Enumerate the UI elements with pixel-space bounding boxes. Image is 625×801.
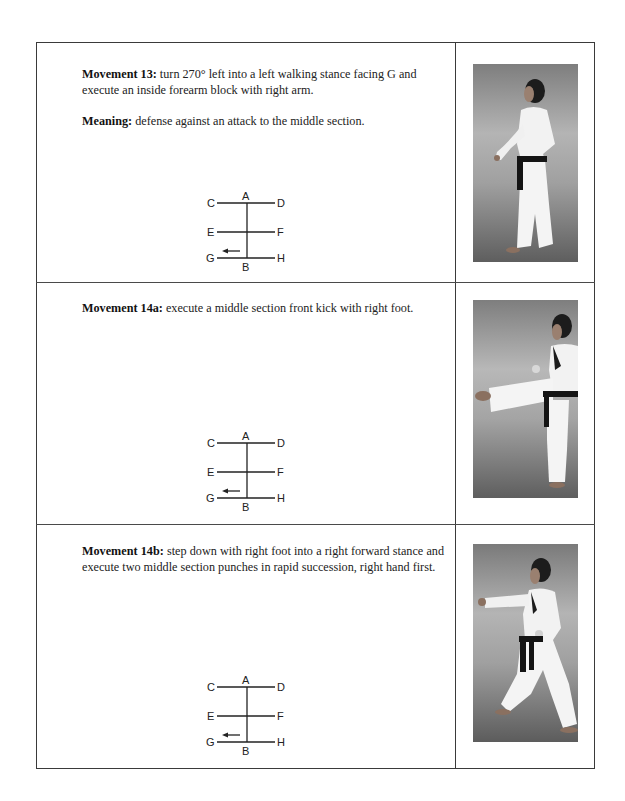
label-d: D [277, 681, 285, 693]
label-f: F [277, 466, 284, 478]
label-h: H [277, 492, 285, 504]
photo-front-kick [473, 300, 578, 498]
photo-walking-stance-block [473, 64, 578, 262]
label-b: B [242, 745, 249, 757]
floor-diagram: A B C D E F G H [195, 674, 295, 754]
label-d: D [277, 197, 285, 209]
label-a: A [242, 430, 250, 442]
label-d: D [277, 437, 285, 449]
label-a: A [242, 674, 250, 686]
label-e: E [207, 226, 214, 238]
column-divider [455, 42, 456, 769]
label-g: G [206, 736, 215, 748]
label-b: B [242, 261, 249, 273]
label-c: C [207, 197, 215, 209]
row-divider [36, 282, 595, 283]
label-e: E [207, 466, 214, 478]
floor-diagram: A B C D E F G H [195, 430, 295, 510]
row-divider [36, 524, 595, 525]
arrow-left-icon [222, 733, 228, 738]
arrow-left-icon [222, 249, 228, 254]
label-f: F [277, 710, 284, 722]
label-b: B [242, 501, 249, 513]
label-c: C [207, 437, 215, 449]
label-g: G [206, 252, 215, 264]
meaning-label: Meaning: [82, 114, 132, 128]
label-a: A [242, 190, 250, 202]
label-c: C [207, 681, 215, 693]
label-f: F [277, 226, 284, 238]
movement-13-description: Movement 13: turn 270° left into a left … [82, 66, 444, 129]
movement-title: Movement 14a: [82, 301, 163, 315]
movement-title: Movement 14b: [82, 544, 164, 558]
movement-title: Movement 13: [82, 67, 157, 81]
label-e: E [207, 710, 214, 722]
photo-forward-stance-punch [473, 544, 578, 742]
meaning-text: defense against an attack to the middle … [132, 114, 365, 128]
arrow-left-icon [222, 489, 228, 494]
floor-diagram: A B C D E F G H [195, 190, 295, 270]
label-g: G [206, 492, 215, 504]
movement-text: execute a middle section front kick with… [163, 301, 413, 315]
label-h: H [277, 252, 285, 264]
label-h: H [277, 736, 285, 748]
movement-14a-description: Movement 14a: execute a middle section f… [82, 300, 444, 316]
movement-14b-description: Movement 14b: step down with right foot … [82, 543, 444, 575]
